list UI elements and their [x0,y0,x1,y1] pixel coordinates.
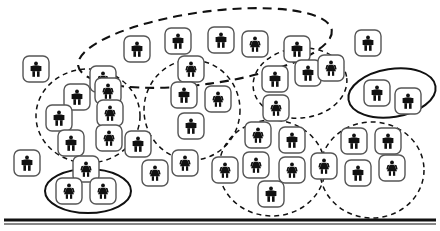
person-icon[interactable] [318,55,344,81]
person-icon[interactable] [124,36,150,62]
person-icon[interactable] [205,86,231,112]
person-icon[interactable] [311,153,337,179]
person-icon[interactable] [258,181,284,207]
person-icon[interactable] [364,80,390,106]
person-icon[interactable] [58,130,84,156]
person-icon[interactable] [125,131,151,157]
person-icon[interactable] [172,150,198,176]
cluster-pair-cluster-right [345,62,439,123]
person-icon[interactable] [375,128,401,154]
person-icon[interactable] [142,160,168,186]
person-icon[interactable] [295,60,321,86]
person-icon[interactable] [284,36,310,62]
baseline-layer [4,220,436,224]
person-icon[interactable] [165,28,191,54]
cluster-diagram-svg [0,0,440,231]
person-icon[interactable] [178,56,204,82]
person-icon[interactable] [341,128,367,154]
person-icon[interactable] [245,122,271,148]
person-icon[interactable] [212,157,238,183]
persons-layer [14,27,421,207]
person-icon[interactable] [171,82,197,108]
person-icon[interactable] [46,105,72,131]
person-icon[interactable] [395,88,421,114]
person-icon[interactable] [56,178,82,204]
person-icon[interactable] [262,66,288,92]
person-icon[interactable] [379,155,405,181]
person-icon[interactable] [23,56,49,82]
person-icon[interactable] [178,113,204,139]
diagram-canvas [0,0,440,231]
person-icon[interactable] [208,27,234,53]
person-icon[interactable] [263,95,289,121]
person-icon[interactable] [96,125,122,151]
person-icon[interactable] [279,157,305,183]
person-icon[interactable] [90,178,116,204]
person-icon[interactable] [279,127,305,153]
person-icon[interactable] [345,160,371,186]
person-icon[interactable] [97,100,123,126]
person-icon[interactable] [243,152,269,178]
person-icon[interactable] [14,150,40,176]
person-icon[interactable] [242,31,268,57]
person-icon[interactable] [355,30,381,56]
